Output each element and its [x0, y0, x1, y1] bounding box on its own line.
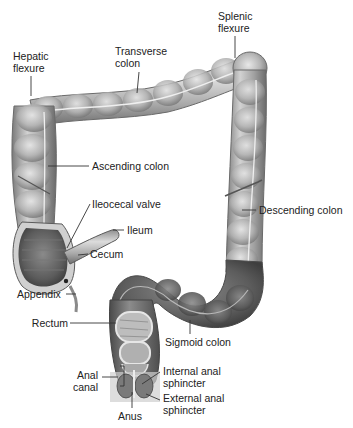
- label-line: External anal: [163, 392, 224, 404]
- label-rectum: Rectum: [30, 317, 68, 329]
- label-cecum: Cecum: [90, 248, 123, 260]
- label-sigmoid-colon: Sigmoid colon: [165, 336, 231, 348]
- label-line: Transverse: [115, 45, 167, 57]
- label-ileum: Ileum: [127, 224, 153, 236]
- label-anus: Anus: [118, 410, 142, 422]
- label-line: sphincter: [163, 377, 221, 389]
- label-line: Anal: [62, 369, 98, 381]
- label-transverse-colon: Transverse colon: [115, 45, 167, 69]
- label-line: Internal anal: [163, 365, 221, 377]
- label-appendix: Appendix: [17, 288, 61, 300]
- label-line: flexure: [13, 62, 49, 74]
- label-ileocecal-valve: Ileocecal valve: [92, 198, 161, 210]
- label-external-anal-sphincter: External anal sphincter: [163, 392, 224, 416]
- label-descending-colon: Descending colon: [259, 204, 342, 216]
- label-hepatic-flexure: Hepatic flexure: [13, 50, 49, 74]
- descending-colon-shape: [225, 70, 266, 273]
- label-ascending-colon: Ascending colon: [92, 160, 169, 172]
- label-line: colon: [115, 57, 167, 69]
- label-line: Hepatic: [13, 50, 49, 62]
- label-splenic-flexure: Splenic flexure: [218, 10, 252, 34]
- label-line: flexure: [218, 22, 252, 34]
- cecum-shape: [13, 222, 75, 294]
- appendix-shape: [70, 286, 77, 312]
- label-line: Splenic: [218, 10, 252, 22]
- label-line: sphincter: [163, 404, 224, 416]
- label-internal-anal-sphincter: Internal anal sphincter: [163, 365, 221, 389]
- label-anal-canal: Anal canal: [62, 369, 98, 393]
- colon-diagram: Hepatic flexure Transverse colon Splenic…: [0, 0, 353, 428]
- label-line: canal: [62, 381, 98, 393]
